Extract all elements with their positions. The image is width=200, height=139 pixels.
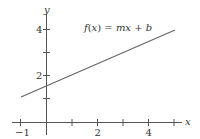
x-axis-label: x xyxy=(185,116,191,127)
y-tick-label-2: 2 xyxy=(36,70,42,81)
y-axis-label: y xyxy=(43,4,50,15)
function-annotation: f(x) = mx + b xyxy=(83,22,152,33)
y-tick-label-4: 4 xyxy=(36,24,42,35)
x-tick-label-neg1: −1 xyxy=(15,127,30,138)
linear-function-chart: −1 2 4 2 4 x y f(x) = mx + b xyxy=(0,0,200,139)
function-line xyxy=(21,30,175,97)
x-tick-label-4: 4 xyxy=(146,127,152,138)
x-tick-label-2: 2 xyxy=(95,127,101,138)
